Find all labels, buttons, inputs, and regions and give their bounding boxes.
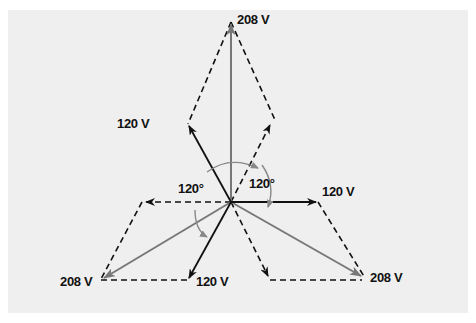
label-phase-downleft: 120 V: [196, 274, 229, 289]
label-phase-upleft: 120 V: [117, 116, 150, 131]
label-line-downright: 208 V: [370, 270, 403, 285]
label-phase-right: 120 V: [322, 184, 355, 199]
line-voltage-vectors: [104, 24, 361, 278]
label-line-top: 208 V: [237, 12, 270, 27]
label-angle-left: 120°: [178, 181, 204, 196]
label-angle-right: 120°: [249, 176, 275, 191]
phasor-diagram: 208 V 120 V 120 V 120 V 208 V 208 V 120°…: [0, 0, 476, 323]
dashed-construction-lines: [101, 22, 365, 280]
label-line-downleft: 208 V: [60, 274, 93, 289]
